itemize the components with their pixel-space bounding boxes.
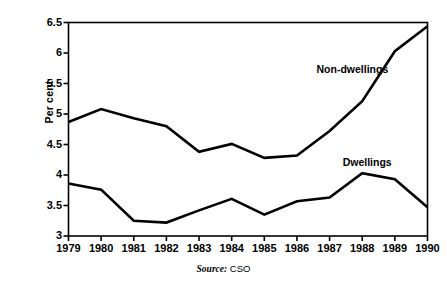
y-tick-label: 6 [20,46,62,58]
source-label: Source: [197,264,228,274]
x-tick-label: 1988 [346,242,378,254]
plot-border [69,23,428,237]
y-tick-label: 5.5 [20,77,62,89]
x-tick-label: 1984 [216,242,248,254]
y-tick-label: 3 [20,229,62,241]
plot-frame [69,23,428,237]
y-tick-label: 4 [20,168,62,180]
y-tick-label: 4.5 [20,138,62,150]
x-tick-label: 1987 [314,242,346,254]
x-tick-label: 1985 [248,242,280,254]
y-tick-label: 3.5 [20,199,62,211]
x-tick-label: 1983 [183,242,215,254]
source-note: Source: CSO [0,263,447,274]
x-tick-label: 1981 [118,242,150,254]
x-tick-label: 1980 [85,242,117,254]
x-tick-label: 1990 [412,242,444,254]
series-annotation-2: Dwellings [343,156,392,168]
y-tick-label: 6.5 [20,16,62,28]
x-tick-label: 1979 [53,242,85,254]
x-tick-label: 1989 [379,242,411,254]
source-value: CSO [230,263,251,274]
x-tick-label: 1986 [281,242,313,254]
chart-figure: Per cent 33.544.555.566.5 19791980198119… [0,0,447,289]
x-tick-label: 1982 [150,242,182,254]
y-tick-label: 5 [20,107,62,119]
series-annotation-1: Non-dwellings [317,63,389,75]
